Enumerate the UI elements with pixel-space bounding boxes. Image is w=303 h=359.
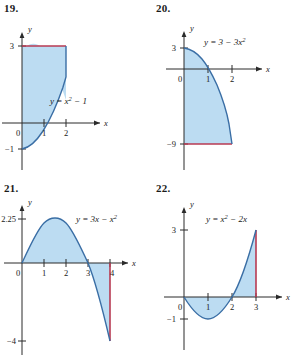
equation-label-22: y = x2 − 2x bbox=[205, 213, 247, 224]
figure-grid: 19. x y 0 1 2 bbox=[0, 0, 303, 359]
y-tick-label-225-21: 2.25 bbox=[1, 214, 16, 224]
figure-cell-19: 19. x y 0 1 2 bbox=[0, 0, 152, 180]
y-axis-label-20: y bbox=[189, 23, 194, 33]
figure-22-plot: x y 0 1 2 3 3 −1 y = x2 − 2x bbox=[152, 180, 303, 359]
x-axis-label-19: x bbox=[103, 118, 108, 128]
equation-label-21: y = 3x − x2 bbox=[75, 213, 118, 224]
y-axis-arrow-22 bbox=[182, 207, 187, 213]
figure-21-plot: x y 0 1 2 3 4 2.25 −4 y = 3x − x2 bbox=[0, 180, 152, 359]
x-tick-label-1-21: 1 bbox=[42, 268, 46, 278]
figure-cell-21: 21. x y 0 bbox=[0, 180, 152, 359]
x-tick-label-3-21: 3 bbox=[86, 268, 90, 278]
y-axis-arrow-19 bbox=[20, 32, 25, 38]
y-tick-label-3-22: 3 bbox=[172, 225, 176, 235]
equation-label-19: y = x2 − 1 bbox=[49, 95, 87, 106]
x-tick-label-2-21: 2 bbox=[64, 268, 68, 278]
x-axis-label-21: x bbox=[131, 258, 136, 268]
x-tick-label-1-19: 1 bbox=[42, 128, 46, 138]
y-tick-label-3-19: 3 bbox=[10, 41, 14, 51]
y-axis-arrow-20 bbox=[182, 31, 187, 37]
x-axis-arrow-20 bbox=[256, 67, 262, 72]
shaded-region-20 bbox=[184, 48, 232, 144]
x-tick-label-2-22: 2 bbox=[230, 302, 234, 312]
figure-cell-22: 22. x y 0 1 bbox=[152, 180, 303, 359]
y-tick-label-neg1-22: −1 bbox=[167, 314, 176, 324]
x-tick-label-2-19: 2 bbox=[64, 128, 68, 138]
y-tick-label-neg9-20: −9 bbox=[167, 139, 176, 149]
y-axis-arrow-21 bbox=[20, 205, 25, 211]
y-axis-label-19: y bbox=[27, 24, 32, 34]
x-tick-label-3-22: 3 bbox=[254, 302, 258, 312]
y-axis-label-22: y bbox=[189, 199, 194, 209]
shaded-region-21-positive bbox=[22, 218, 88, 263]
figure-19-plot: x y 0 1 2 3 −1 y = x2 − 1 bbox=[0, 0, 152, 180]
x-axis-arrow-21 bbox=[122, 261, 128, 266]
x-axis-arrow-22 bbox=[276, 295, 282, 300]
x-tick-label-1-22: 1 bbox=[206, 302, 210, 312]
x-axis-label-22: x bbox=[285, 292, 290, 302]
y-axis-label-21: y bbox=[27, 197, 32, 207]
x-tick-label-2-20: 2 bbox=[230, 74, 234, 84]
x-tick-label-0-21: 0 bbox=[16, 268, 20, 278]
figure-20-plot: x y 0 1 2 3 −9 y = 3 − 3x2 bbox=[152, 0, 303, 180]
y-tick-label-3-20: 3 bbox=[172, 43, 176, 53]
x-tick-label-0-20: 0 bbox=[178, 74, 182, 84]
x-tick-label-0-19: 0 bbox=[16, 128, 20, 138]
x-tick-label-1-20: 1 bbox=[206, 74, 210, 84]
y-tick-label-neg1-19: −1 bbox=[5, 144, 14, 154]
shaded-region-22-positive bbox=[232, 230, 256, 297]
equation-label-20: y = 3 − 3x2 bbox=[203, 36, 246, 47]
x-tick-label-4-21: 4 bbox=[110, 268, 115, 278]
y-tick-label-neg4-21: −4 bbox=[7, 336, 17, 346]
x-tick-label-0-22: 0 bbox=[178, 302, 182, 312]
x-axis-arrow-19 bbox=[94, 121, 100, 126]
figure-cell-20: 20. x y 0 1 2 3 −9 bbox=[152, 0, 303, 180]
x-axis-label-20: x bbox=[265, 64, 270, 74]
